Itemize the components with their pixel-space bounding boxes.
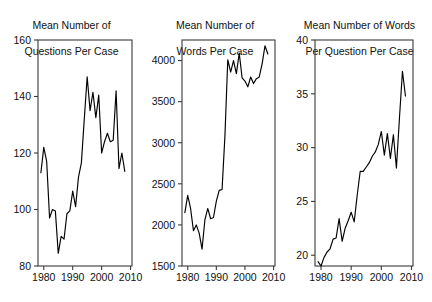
plot-area-questions-per-case: 801001201401601980199020002010 — [0, 0, 143, 302]
y-tick-label: 2000 — [152, 219, 176, 231]
series-line — [318, 71, 405, 266]
x-tick-label: 1980 — [32, 271, 56, 283]
y-tick-label: 40 — [296, 34, 308, 46]
y-tick-label: 25 — [296, 195, 308, 207]
y-tick-label: 3500 — [152, 95, 176, 107]
y-tick-label: 120 — [13, 147, 31, 159]
figure-panel-group: Mean Number of Questions Per Case 801001… — [0, 0, 432, 302]
x-tick-label: 1990 — [340, 271, 364, 283]
y-tick-label: 4000 — [152, 54, 176, 66]
x-tick-label: 2010 — [119, 271, 143, 283]
y-tick-label: 3000 — [152, 137, 176, 149]
y-tick-label: 1500 — [152, 260, 176, 272]
x-tick-label: 2010 — [400, 271, 424, 283]
y-tick-label: 140 — [13, 90, 31, 102]
x-tick-label: 1990 — [205, 271, 229, 283]
x-tick-label: 2000 — [90, 271, 114, 283]
chart-panel-words-per-case: Mean Number of Words Per Case 1500200025… — [143, 0, 287, 302]
y-tick-label: 2500 — [152, 178, 176, 190]
x-tick-label: 2010 — [262, 271, 286, 283]
x-tick-label: 1990 — [61, 271, 85, 283]
plot-area-words-per-question-per-case: 20253035401980199020002010 — [287, 0, 432, 302]
series-line — [185, 46, 268, 249]
y-tick-label: 160 — [13, 34, 31, 46]
y-tick-label: 35 — [296, 88, 308, 100]
y-tick-label: 100 — [13, 203, 31, 215]
plot-area-words-per-case: 1500200025003000350040001980199020002010 — [143, 0, 287, 302]
y-tick-label: 20 — [296, 249, 308, 261]
x-tick-label: 1980 — [309, 271, 333, 283]
x-tick-label: 2000 — [370, 271, 394, 283]
chart-panel-questions-per-case: Mean Number of Questions Per Case 801001… — [0, 0, 143, 302]
plot-frame — [315, 40, 413, 266]
chart-panel-words-per-question-per-case: Mean Number of Words Per Question Per Ca… — [287, 0, 432, 302]
x-tick-label: 1980 — [176, 271, 200, 283]
y-tick-label: 30 — [296, 141, 308, 153]
series-line — [41, 77, 125, 254]
plot-frame — [182, 40, 275, 266]
y-tick-label: 80 — [19, 260, 31, 272]
x-tick-label: 2000 — [233, 271, 257, 283]
